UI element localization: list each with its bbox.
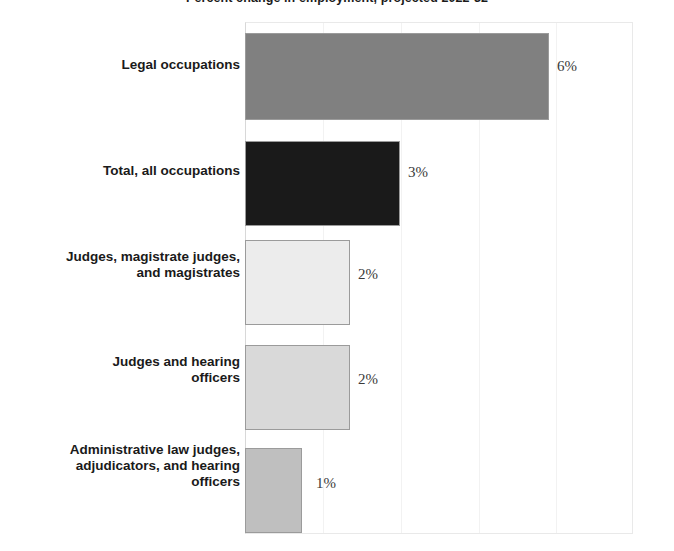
bar[interactable] [245, 141, 400, 226]
category-label: Total, all occupations [5, 163, 240, 179]
bar[interactable] [245, 345, 350, 430]
bar-value-label: 3% [408, 164, 428, 181]
bar-value-label: 2% [358, 371, 378, 388]
bar[interactable] [245, 448, 302, 533]
bar[interactable] [245, 240, 350, 325]
category-label: Administrative law judges, adjudicators,… [5, 442, 240, 490]
category-label: Judges and hearing officers [5, 354, 240, 386]
bar-row: Administrative law judges, adjudicators,… [0, 0, 674, 100]
category-label: Judges, magistrate judges, and magistrat… [5, 249, 240, 281]
bar-value-label: 1% [316, 475, 336, 492]
bar-value-label: 2% [358, 266, 378, 283]
bar-chart: Percent change in employment, projected … [0, 0, 674, 551]
